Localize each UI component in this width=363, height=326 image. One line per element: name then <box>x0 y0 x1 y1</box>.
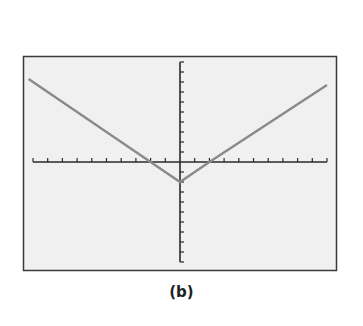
figure-caption: (b) <box>0 283 363 301</box>
graph-figure <box>0 0 363 326</box>
